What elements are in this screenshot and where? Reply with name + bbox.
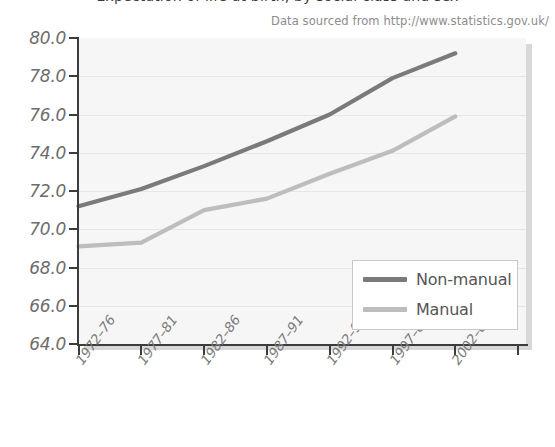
y-axis-labels: 80.078.076.074.072.070.068.066.064.0	[0, 0, 66, 447]
legend-swatch-manual	[363, 307, 407, 312]
chart-legend: Non-manual Manual	[352, 260, 518, 330]
legend-item-manual: Manual	[363, 300, 473, 318]
y-axis-tick	[69, 190, 78, 192]
y-axis-tick-label: 80.0	[4, 28, 66, 48]
y-axis-tick-label: 64.0	[4, 334, 66, 354]
y-axis-tick-label: 76.0	[4, 105, 66, 125]
clipped-chart-title: Expectation of life at birth, by social …	[0, 0, 555, 4]
legend-label-manual: Manual	[416, 300, 473, 319]
y-axis-tick	[69, 267, 78, 269]
y-axis-tick-label: 70.0	[4, 219, 66, 239]
x-axis-tick	[517, 346, 519, 355]
line-chart: Expectation of life at birth, by social …	[0, 0, 555, 447]
legend-swatch-non-manual	[363, 277, 407, 282]
source-note: Data sourced from http://www.statistics.…	[271, 14, 549, 28]
y-axis-tick-label: 72.0	[4, 181, 66, 201]
y-axis-tick	[69, 228, 78, 230]
y-axis-tick-label: 66.0	[4, 296, 66, 316]
y-axis-tick	[69, 114, 78, 116]
y-axis-tick-label: 74.0	[4, 143, 66, 163]
series-line-manual	[79, 116, 456, 246]
y-axis-tick-label: 68.0	[4, 258, 66, 278]
legend-item-non-manual: Non-manual	[363, 270, 512, 288]
legend-label-non-manual: Non-manual	[416, 270, 512, 289]
y-axis-tick	[69, 152, 78, 154]
clipped-chart-title-text: Expectation of life at birth, by social …	[0, 0, 555, 4]
y-axis-tick	[69, 75, 78, 77]
y-axis-tick	[69, 343, 78, 345]
y-axis-tick	[69, 305, 78, 307]
y-axis-tick-label: 78.0	[4, 66, 66, 86]
y-axis-tick	[69, 37, 78, 39]
series-line-non-manual	[79, 53, 456, 206]
